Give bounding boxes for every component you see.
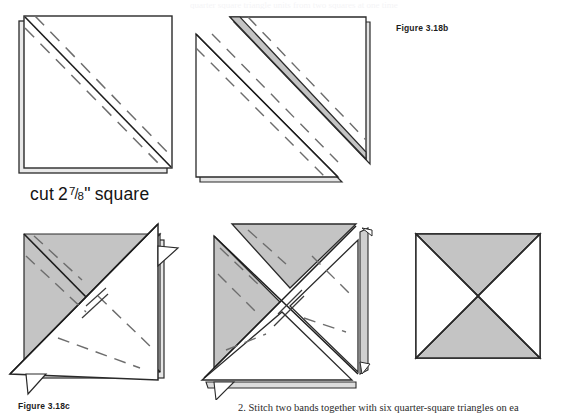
diagram-stitched-and-cut-triangles bbox=[192, 12, 380, 192]
seam-tab-right bbox=[158, 246, 178, 266]
diagram-2-canvas bbox=[192, 12, 380, 192]
diagram-1-canvas bbox=[16, 14, 188, 186]
cut-label-inch-mark: " bbox=[84, 184, 90, 205]
figure-caption-3-18c: Figure 3.18c bbox=[18, 401, 70, 411]
figure-caption-3-18b: Figure 3.18b bbox=[396, 23, 448, 33]
cut-size-label: cut 2 7 / 8 " square bbox=[30, 184, 149, 205]
diagram-paired-triangle-units-crossed bbox=[2, 222, 188, 400]
seam-tab-bottom-left bbox=[214, 382, 234, 400]
top-bleed-text: quarter square triangle units from two s… bbox=[190, 0, 550, 9]
seam-tab-bottom-left bbox=[26, 374, 46, 394]
cut-label-fraction: 7 / 8 bbox=[69, 187, 84, 203]
right-edge-strip bbox=[360, 228, 368, 374]
diagram-3-canvas bbox=[2, 222, 188, 400]
instruction-step-text: 2. Stitch two bands together with six qu… bbox=[238, 402, 562, 414]
diagram-5-canvas bbox=[408, 228, 548, 364]
cut-label-denominator: 8 bbox=[78, 190, 85, 202]
diagram-finished-quarter-square-triangle-block bbox=[408, 228, 548, 364]
figure-page: quarter square triangle units from two s… bbox=[0, 0, 562, 414]
cut-label-prefix: cut bbox=[30, 184, 54, 205]
cut-label-whole: 2 bbox=[58, 184, 68, 205]
cut-label-suffix: square bbox=[95, 184, 150, 205]
diagram-crossed-units-cut-diagonally bbox=[186, 222, 382, 400]
diagram-layered-square-with-stitch-lines bbox=[16, 14, 188, 186]
diagram-4-canvas bbox=[186, 222, 382, 400]
